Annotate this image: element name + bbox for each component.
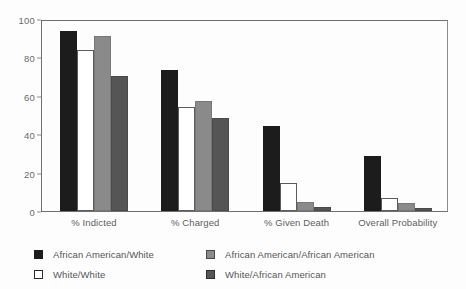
y-axis-tick-label: 80 <box>24 53 35 64</box>
y-axis-tick-label: 100 <box>19 15 35 26</box>
legend-item-label: African American/White <box>53 249 154 260</box>
legend-item[interactable]: African American/African American <box>206 247 375 261</box>
legend-item[interactable]: African American/White <box>34 247 154 261</box>
legend-item-label: White/White <box>53 269 105 280</box>
bar-group <box>346 21 447 211</box>
bar <box>381 198 398 211</box>
x-axis-tick-label: Overall Probability <box>358 217 437 228</box>
y-axis-tick-label: 0 <box>30 207 35 218</box>
bar <box>94 36 111 211</box>
bar-group <box>245 21 346 211</box>
bar <box>77 50 94 212</box>
bar-chart: 020406080100 % Indicted% Charged% Given … <box>0 0 466 289</box>
x-axis: % Indicted% Charged% Given DeathOverall … <box>42 217 447 233</box>
bar <box>364 156 381 211</box>
bar <box>280 183 297 212</box>
bar <box>212 118 229 211</box>
x-axis-tick-label: % Charged <box>171 217 219 228</box>
legend-item-label: White/African American <box>225 269 326 280</box>
bar <box>398 203 415 211</box>
legend-item[interactable]: White/White <box>34 267 105 281</box>
white-swatch-icon <box>34 270 43 279</box>
x-axis-tick-label: % Given Death <box>264 217 329 228</box>
x-axis-tick-label: % Indicted <box>71 217 116 228</box>
y-axis: 020406080100 <box>0 20 41 212</box>
black-swatch-icon <box>34 250 43 259</box>
bar <box>161 70 178 211</box>
bars-layer <box>42 21 447 211</box>
bar <box>178 107 195 212</box>
legend-item[interactable]: White/African American <box>206 267 326 281</box>
y-axis-tick-label: 60 <box>24 91 35 102</box>
bar-group <box>143 21 244 211</box>
bar <box>415 208 432 211</box>
legend-item-label: African American/African American <box>225 249 375 260</box>
bar <box>297 202 314 212</box>
y-axis-tick-label: 20 <box>24 168 35 179</box>
bar <box>263 126 280 212</box>
dark-gray-swatch-icon <box>206 270 215 279</box>
y-axis-tick-label: 40 <box>24 130 35 141</box>
bar <box>314 207 331 211</box>
bar <box>60 31 77 212</box>
chart-legend: African American/WhiteWhite/WhiteAfrican… <box>34 245 454 285</box>
bar <box>111 76 128 211</box>
bar <box>195 101 212 211</box>
bar-group <box>42 21 143 211</box>
light-gray-swatch-icon <box>206 250 215 259</box>
